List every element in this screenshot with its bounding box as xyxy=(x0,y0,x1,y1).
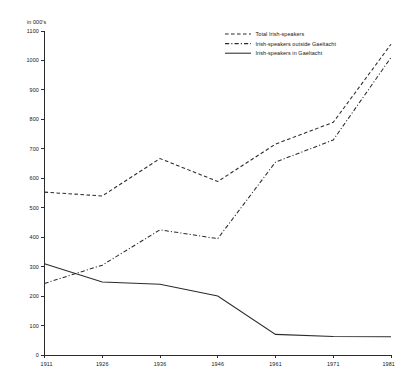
data-series-group xyxy=(45,44,392,336)
y-axis-ticks: 010020030040050060070080090010001100 xyxy=(26,28,44,358)
x-tick-label: 1926 xyxy=(96,361,109,367)
x-tick-label: 1936 xyxy=(154,361,167,367)
x-tick-label: 1971 xyxy=(327,361,340,367)
y-tick-label: 900 xyxy=(30,87,39,93)
x-tick-label: 1946 xyxy=(211,361,224,367)
x-tick-label: 1911 xyxy=(41,361,53,367)
y-tick-label: 0 xyxy=(36,352,39,358)
series-line-irish-speakers-outside-gaeltacht xyxy=(45,58,392,284)
legend-label-2: Irish-speakers outside Gaeltacht xyxy=(256,41,337,47)
line-chart: 010020030040050060070080090010001100 191… xyxy=(0,0,416,384)
x-axis: 1911192619361946196119711981 xyxy=(41,355,396,367)
series-line-irish-speakers-in-gaeltacht xyxy=(45,264,392,337)
y-tick-label: 700 xyxy=(30,146,39,152)
y-tick-label: 600 xyxy=(30,175,39,181)
y-tick-label: 300 xyxy=(30,264,39,270)
y-axis-unit-label: in 000's xyxy=(27,19,46,25)
chart-legend: Total Irish-speakersIrish-speakers outsi… xyxy=(225,31,336,56)
x-tick-label: 1981 xyxy=(382,361,395,367)
y-tick-label: 1100 xyxy=(27,28,39,34)
y-tick-label: 400 xyxy=(30,234,39,240)
y-axis: 010020030040050060070080090010001100 xyxy=(26,28,44,358)
y-tick-label: 500 xyxy=(30,205,39,211)
legend-label-1: Total Irish-speakers xyxy=(256,31,305,37)
y-tick-label: 100 xyxy=(30,323,39,329)
y-tick-label: 800 xyxy=(30,116,39,122)
x-axis-ticks: 1911192619361946196119711981 xyxy=(41,355,396,367)
series-line-total-irish-speakers xyxy=(45,44,392,196)
y-tick-label: 200 xyxy=(30,293,39,299)
x-tick-label: 1961 xyxy=(269,361,282,367)
chart-plot-area: 010020030040050060070080090010001100 191… xyxy=(0,0,416,384)
y-tick-label: 1000 xyxy=(26,57,39,63)
legend-label-3: Irish-speakers in Gaeltacht xyxy=(256,50,323,56)
